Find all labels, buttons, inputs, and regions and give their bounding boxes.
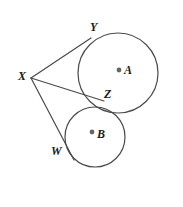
point-label-a: A	[124, 64, 132, 76]
circle-a-outline	[78, 33, 158, 113]
geometry-figure-canvas: Y X A Z B W	[0, 0, 183, 207]
segment-xz	[31, 78, 104, 101]
point-label-w: W	[51, 145, 62, 157]
circle-b-outline	[65, 107, 125, 167]
center-dot-b	[90, 130, 95, 135]
segment-xy	[31, 38, 91, 78]
point-label-y: Y	[90, 21, 97, 33]
point-label-z: Z	[104, 88, 111, 100]
point-label-x: X	[18, 70, 26, 82]
point-label-b: B	[97, 128, 105, 140]
center-dot-a	[117, 68, 122, 73]
